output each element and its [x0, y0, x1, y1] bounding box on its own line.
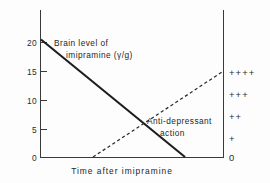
right-tick-label-4plus: ++++ [229, 67, 255, 78]
annotation-antidepressant-line2: action [160, 128, 185, 138]
right-tick-label-3plus: +++ [229, 89, 249, 100]
right-tick-label-1plus: + [229, 133, 236, 144]
chart-canvas: 20 15 10 5 0 ++++ +++ ++ + 0 Brain level… [0, 0, 270, 183]
annotation-brain-level-line2: imipramine (γ/g) [66, 50, 133, 60]
chart-figure: 20 15 10 5 0 ++++ +++ ++ + 0 Brain level… [0, 0, 270, 183]
series-line-antidepressant-action [93, 72, 222, 157]
annotation-brain-level-line1: Brain level of [54, 38, 109, 48]
left-tick-label-5: 5 [32, 125, 37, 135]
left-tick-label-10: 10 [27, 96, 37, 106]
left-tick-label-15: 15 [27, 67, 37, 77]
left-tick-label-0: 0 [32, 153, 37, 163]
right-tick-label-0: 0 [229, 152, 235, 163]
right-tick-label-2plus: ++ [229, 111, 242, 122]
left-tick-label-20: 20 [27, 38, 37, 48]
annotation-antidepressant-line1: Anti-depressant [147, 116, 212, 126]
x-axis-title: Time after imipramine [71, 166, 173, 176]
